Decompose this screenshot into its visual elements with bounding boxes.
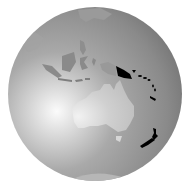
globe-locator-map <box>0 0 190 190</box>
